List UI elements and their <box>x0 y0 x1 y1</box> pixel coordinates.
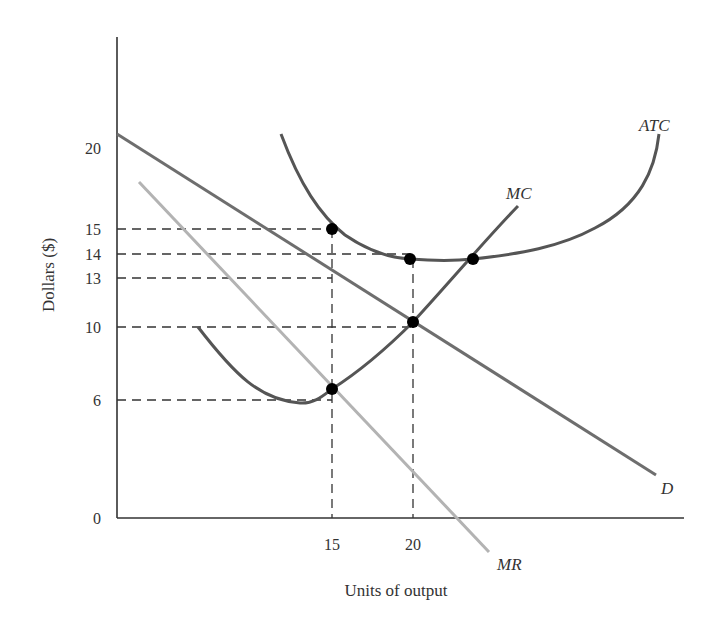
point-atc-min <box>467 253 479 265</box>
point-mc-d <box>407 316 419 328</box>
point-mc-mr <box>326 383 338 395</box>
monopoly-cost-revenue-chart: 20 15 14 13 10 6 0 15 20 Units of output… <box>0 0 713 625</box>
average-total-cost-curve <box>281 134 659 261</box>
y-tick-20: 20 <box>85 140 101 157</box>
marginal-cost-curve <box>198 206 518 403</box>
y-tick-6: 6 <box>93 392 101 409</box>
x-tick-15: 15 <box>324 536 340 553</box>
marginal-revenue-curve <box>139 182 489 552</box>
y-axis-title: Dollars ($) <box>39 238 58 312</box>
highlight-points <box>326 223 479 395</box>
y-tick-14: 14 <box>85 246 101 263</box>
y-tick-0: 0 <box>93 510 101 527</box>
y-tick-labels: 20 15 14 13 10 6 0 <box>85 140 101 527</box>
demand-curve <box>117 134 656 475</box>
point-price-q15 <box>326 223 338 235</box>
y-tick-13: 13 <box>85 270 101 287</box>
x-tick-20: 20 <box>405 536 421 553</box>
reference-lines <box>117 229 413 518</box>
mr-label: MR <box>496 555 522 574</box>
point-atc-q20 <box>404 253 416 265</box>
d-label: D <box>660 479 674 498</box>
x-tick-labels: 15 20 <box>324 536 421 553</box>
mc-label: MC <box>505 184 532 203</box>
y-tick-15: 15 <box>85 221 101 238</box>
y-tick-10: 10 <box>85 319 101 336</box>
x-axis-title: Units of output <box>345 581 448 600</box>
axes <box>117 37 684 518</box>
atc-label: ATC <box>638 116 670 135</box>
